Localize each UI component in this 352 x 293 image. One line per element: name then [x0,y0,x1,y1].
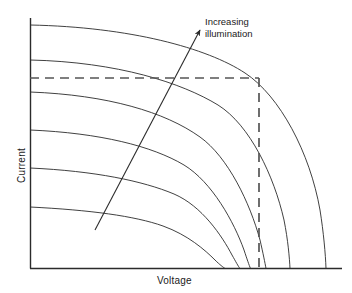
iv-curve-illumination-5 [30,60,290,269]
iv-curve-illumination-1 [30,207,225,269]
arrow-shaft [95,30,200,230]
iv-curve-series-group [30,25,326,269]
iv-curve-illumination-4 [30,92,266,269]
operating-point-guides [30,78,259,268]
y-axis-label: Current [16,136,27,196]
plot-canvas [0,0,352,293]
iv-characteristic-figure: Current Voltage Increasing illumination [0,0,352,293]
x-axis-label: Voltage [157,275,192,286]
iv-curve-illumination-3 [30,130,251,269]
annotation-line-1: Increasing [205,16,253,28]
increasing-illumination-label: Increasing illumination [205,16,253,40]
increasing-illumination-arrow [95,30,200,230]
iv-curve-illumination-6 [30,25,326,269]
annotation-line-2: illumination [205,28,253,40]
